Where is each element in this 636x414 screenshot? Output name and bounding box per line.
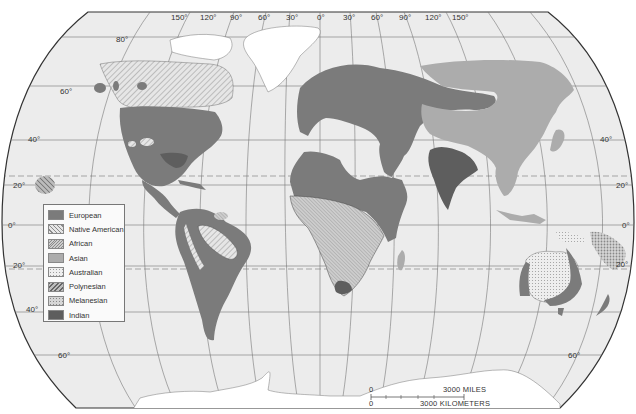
lon-label: 60°	[258, 13, 270, 22]
lon-label: 0°	[317, 13, 325, 22]
legend-label: Australian	[69, 268, 102, 277]
region-polynesian-hawaii	[35, 176, 55, 194]
legend-item-indian: Indian	[48, 308, 124, 322]
legend-item-european: European	[48, 208, 124, 222]
lat-label: 0°	[622, 221, 630, 230]
lat-label: 0°	[8, 221, 16, 230]
region-native-american-us-west-2	[128, 141, 136, 147]
scale-zero-km: 0	[369, 399, 373, 408]
lat-label: 60°	[58, 351, 70, 360]
lat-label: 20°	[616, 260, 628, 269]
lon-label: 120°	[425, 13, 442, 22]
region-native-american-north	[100, 61, 233, 109]
region-european-canada-patch	[137, 82, 147, 90]
lon-label: 150°	[171, 13, 188, 22]
lon-label: 60°	[371, 13, 383, 22]
scale-bar: 0 3000 MILES 0 3000 KILOMETERS	[368, 385, 478, 409]
lat-label: 80°	[116, 35, 128, 44]
swatch-melanesian	[48, 296, 64, 306]
legend-label: Polynesian	[69, 282, 106, 291]
scale-zero-miles: 0	[369, 385, 373, 394]
legend-label: Indian	[69, 311, 89, 320]
lat-label: 40°	[28, 135, 40, 144]
legend: European Native American African Asian A…	[43, 204, 125, 322]
legend-item-asian: Asian	[48, 251, 124, 265]
lat-label: 20°	[13, 181, 25, 190]
lon-label: 90°	[230, 13, 242, 22]
region-native-american-us-west-1	[140, 138, 154, 146]
legend-item-polynesian: Polynesian	[48, 279, 124, 293]
swatch-european	[48, 210, 64, 220]
lat-label: 40°	[26, 305, 38, 314]
legend-label: European	[69, 211, 102, 220]
swatch-polynesian	[48, 282, 64, 292]
lat-label: 60°	[568, 351, 580, 360]
lon-label: 150°	[452, 13, 469, 22]
region-african-guianas	[214, 212, 228, 220]
legend-item-native-american: Native American	[48, 222, 124, 236]
swatch-asian	[48, 253, 64, 263]
legend-item-african: African	[48, 237, 124, 251]
swatch-australian	[48, 267, 64, 277]
region-european-yukon	[113, 81, 119, 91]
lon-label: 120°	[200, 13, 217, 22]
legend-item-melanesian: Melanesian	[48, 294, 124, 308]
legend-item-australian: Australian	[48, 265, 124, 279]
scale-km-label: 3000 KILOMETERS	[420, 399, 490, 408]
lon-label: 90°	[399, 13, 411, 22]
lon-label: 30°	[286, 13, 298, 22]
legend-label: Native American	[69, 225, 124, 234]
legend-label: African	[69, 239, 92, 248]
lat-label: 20°	[13, 261, 25, 270]
swatch-indian	[48, 310, 64, 320]
legend-label: Asian	[69, 254, 88, 263]
swatch-native-american	[48, 224, 64, 234]
scale-miles-label: 3000 MILES	[443, 385, 486, 394]
legend-label: Melanesian	[69, 296, 107, 305]
lat-label: 60°	[60, 87, 72, 96]
swatch-african	[48, 239, 64, 249]
region-european-alaska	[94, 83, 106, 93]
lon-label: 30°	[343, 13, 355, 22]
lat-label: 20°	[616, 181, 628, 190]
lat-label: 40°	[600, 135, 612, 144]
